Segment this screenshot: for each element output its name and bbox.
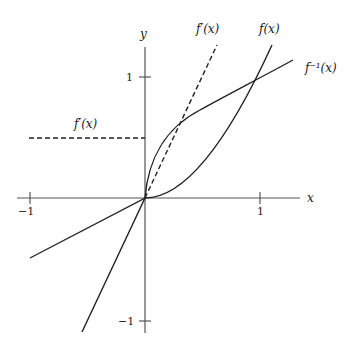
label-f-inverse: f⁻¹(x)	[304, 61, 337, 75]
x-axis-label: x	[307, 191, 314, 205]
x-tick-label-1: 1	[257, 205, 264, 218]
curve-f	[82, 45, 272, 332]
x-tick-label-neg1: −1	[18, 205, 34, 218]
label-f-prime-left: f′(x)	[73, 117, 98, 131]
function-diagram: −1 1 1 −1 x y f′(x) f(x) f⁻¹(x) f′(x)	[0, 0, 354, 354]
label-f: f(x)	[258, 22, 280, 36]
y-tick-label-neg1: −1	[118, 315, 134, 328]
curve-f-inverse	[30, 60, 293, 258]
label-f-prime-top: f′(x)	[195, 22, 220, 36]
curve-f-prime-right	[145, 45, 217, 198]
y-axis-label: y	[139, 27, 147, 41]
y-tick-label-1: 1	[126, 71, 133, 84]
